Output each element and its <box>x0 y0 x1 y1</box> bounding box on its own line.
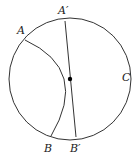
arc-a-b <box>25 40 66 136</box>
label-b: B <box>43 142 52 155</box>
label-c: C <box>122 71 131 84</box>
label-a: A <box>16 24 25 37</box>
label-a-prime: A′ <box>57 4 69 17</box>
center-point <box>68 77 72 81</box>
diagram-canvas: A′ A B B′ C <box>0 0 137 155</box>
circle-diagram: A′ A B B′ C <box>0 0 137 155</box>
label-b-prime: B′ <box>69 142 81 155</box>
